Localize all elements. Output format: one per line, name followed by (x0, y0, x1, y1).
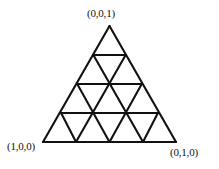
vertex-label-top: (0,0,1) (87, 7, 115, 19)
vertex-label-bottom-left: (1,0,0) (7, 140, 35, 152)
simplex-diagram: (0,0,1) (1,0,0) (0,1,0) (0, 0, 219, 169)
vertex-label-bottom-right: (0,1,0) (170, 146, 198, 158)
right-parallel-3 (61, 113, 76, 142)
triangle-subdivision-lines (43, 26, 176, 142)
left-parallel-3 (143, 113, 158, 142)
